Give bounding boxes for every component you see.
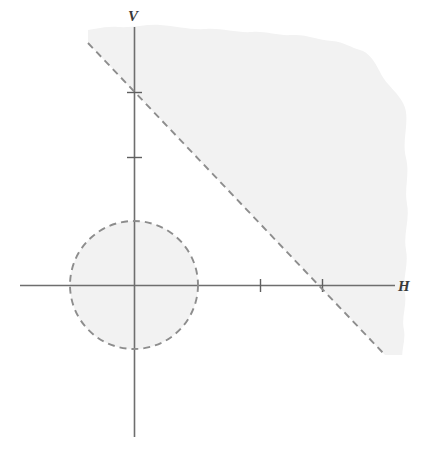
vertical-axis-label: V [128,9,138,24]
horizontal-axis-label: H [398,279,410,294]
graph-figure: V H [0,0,427,452]
graph-canvas [0,0,427,452]
